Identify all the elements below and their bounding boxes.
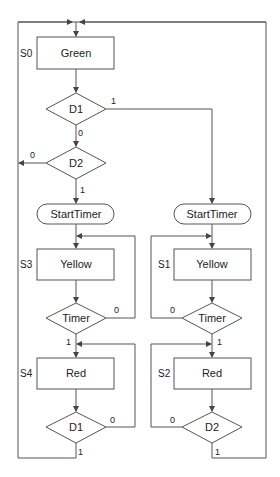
edge-label-d1-false: 0 bbox=[78, 128, 83, 138]
edge-label-d2-false: 0 bbox=[30, 150, 35, 160]
decision-text-timer-left: Timer bbox=[62, 312, 90, 324]
decision-text-d2-top: D2 bbox=[69, 157, 83, 169]
decision-text-d1-bottom: D1 bbox=[69, 421, 83, 433]
start-timer-right-text: StartTimer bbox=[187, 208, 238, 220]
asm-chart: S0 Green D1 1 0 D2 0 1 StartTimer StartT… bbox=[0, 0, 280, 477]
edge-label-d1-bottom-true: 1 bbox=[78, 447, 83, 457]
state-label-s1: S1 bbox=[158, 259, 171, 270]
edge-label-d1-bottom-false: 0 bbox=[110, 415, 115, 425]
start-timer-left-text: StartTimer bbox=[51, 208, 102, 220]
edge-timer-right-false bbox=[151, 236, 211, 318]
state-output-s2: Red bbox=[202, 367, 222, 379]
state-label-s3: S3 bbox=[20, 259, 33, 270]
edge-d2-bottom-true bbox=[212, 443, 266, 458]
edge-label-timer-left-false: 0 bbox=[114, 305, 119, 315]
decision-text-d1-top: D1 bbox=[69, 103, 83, 115]
edge-label-timer-right-false: 0 bbox=[170, 305, 175, 315]
edge-d1-bottom-false bbox=[77, 344, 135, 427]
state-label-s4: S4 bbox=[20, 368, 33, 379]
edge-label-d2-bottom-true: 1 bbox=[215, 447, 220, 457]
state-output-s4: Red bbox=[66, 367, 86, 379]
edge-label-d2-true: 1 bbox=[80, 185, 85, 195]
edge-label-d1-true: 1 bbox=[111, 96, 116, 106]
edge-label-d2-bottom-false: 0 bbox=[170, 415, 175, 425]
state-output-s3: Yellow bbox=[60, 258, 91, 270]
state-output-s0: Green bbox=[61, 47, 92, 59]
decision-text-d2-bottom: D2 bbox=[205, 421, 219, 433]
edge-timer-left-false bbox=[77, 236, 135, 318]
state-label-s2: S2 bbox=[158, 368, 171, 379]
edge-label-timer-right-true: 1 bbox=[217, 337, 222, 347]
edge-label-timer-left-true: 1 bbox=[66, 337, 71, 347]
state-output-s1: Yellow bbox=[196, 258, 227, 270]
edge-d1-true bbox=[106, 109, 212, 203]
decision-text-timer-right: Timer bbox=[198, 312, 226, 324]
state-label-s0: S0 bbox=[20, 48, 33, 59]
edge-d2-bottom-false bbox=[151, 344, 211, 427]
